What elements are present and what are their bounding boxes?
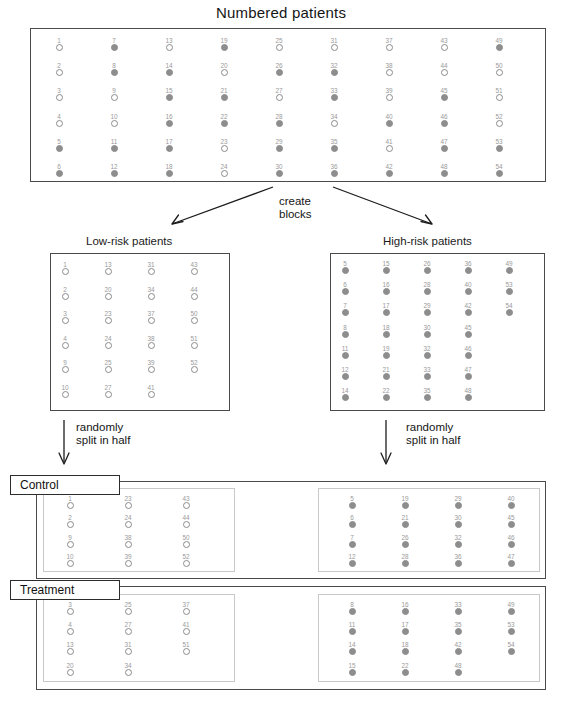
patient-marker: 26 xyxy=(272,62,286,77)
filled-dot-icon xyxy=(496,145,503,152)
filled-dot-icon xyxy=(424,352,431,359)
patient-number: 33 xyxy=(423,366,430,373)
filled-dot-icon xyxy=(349,628,356,635)
open-dot-icon xyxy=(56,94,63,101)
patient-marker: 18 xyxy=(398,641,412,656)
filled-dot-icon xyxy=(342,267,349,274)
patient-number: 12 xyxy=(110,163,117,170)
patient-marker: 30 xyxy=(420,324,434,339)
filled-dot-icon xyxy=(508,648,515,655)
patient-marker: 34 xyxy=(327,113,341,128)
filled-dot-icon xyxy=(166,145,173,152)
patient-number: 41 xyxy=(182,621,189,628)
patient-number: 24 xyxy=(124,514,131,521)
patient-marker: 3 xyxy=(63,601,77,616)
patient-number: 44 xyxy=(190,286,197,293)
patient-marker: 20 xyxy=(217,62,231,77)
patient-number: 40 xyxy=(507,495,514,502)
patient-marker: 1 xyxy=(58,261,72,276)
filled-dot-icon xyxy=(342,288,349,295)
patient-marker: 8 xyxy=(107,62,121,77)
control-tag-label: Control xyxy=(20,478,59,492)
patient-marker: 25 xyxy=(121,601,135,616)
patient-marker: 38 xyxy=(121,534,135,549)
open-dot-icon xyxy=(148,391,155,398)
patient-marker: 23 xyxy=(121,495,135,510)
patient-number: 45 xyxy=(507,514,514,521)
patient-number: 27 xyxy=(104,384,111,391)
patient-marker: 20 xyxy=(101,286,115,301)
filled-dot-icon xyxy=(349,560,356,567)
filled-dot-icon xyxy=(56,145,63,152)
patient-marker: 4 xyxy=(52,113,66,128)
patient-marker: 32 xyxy=(420,345,434,360)
patient-marker: 53 xyxy=(492,138,506,153)
patient-marker: 44 xyxy=(187,286,201,301)
filled-dot-icon xyxy=(56,170,63,177)
patient-marker: 5 xyxy=(52,138,66,153)
patient-marker: 14 xyxy=(162,62,176,77)
patient-number: 51 xyxy=(495,87,502,94)
patient-number: 34 xyxy=(330,113,337,120)
filled-dot-icon xyxy=(166,170,173,177)
patient-marker: 41 xyxy=(382,138,396,153)
patient-number: 25 xyxy=(275,37,282,44)
patient-number: 27 xyxy=(275,87,282,94)
patient-marker: 22 xyxy=(379,387,393,402)
patient-number: 22 xyxy=(401,662,408,669)
patient-number: 9 xyxy=(68,534,72,541)
filled-dot-icon xyxy=(166,120,173,127)
patient-marker: 48 xyxy=(461,387,475,402)
filled-dot-icon xyxy=(221,120,228,127)
filled-dot-icon xyxy=(342,352,349,359)
patient-marker: 22 xyxy=(398,662,412,677)
patient-marker: 46 xyxy=(461,345,475,360)
patient-marker: 13 xyxy=(101,261,115,276)
patient-marker: 19 xyxy=(217,37,231,52)
treatment-tag: Treatment xyxy=(10,580,120,600)
patient-number: 21 xyxy=(401,514,408,521)
treatment-tag-label: Treatment xyxy=(20,583,74,597)
patient-number: 49 xyxy=(505,260,512,267)
open-dot-icon xyxy=(67,628,74,635)
patient-marker: 12 xyxy=(107,163,121,178)
low-risk-grid: 1234910132023242527313437383941434450515… xyxy=(51,254,229,410)
patient-marker: 39 xyxy=(121,553,135,568)
patient-number: 54 xyxy=(505,302,512,309)
open-dot-icon xyxy=(386,44,393,51)
patient-number: 11 xyxy=(342,345,349,352)
patient-marker: 43 xyxy=(437,37,451,52)
filled-dot-icon xyxy=(508,560,515,567)
numbered-patients-grid: 1234567891011121314151617181920212223242… xyxy=(31,29,545,181)
open-dot-icon xyxy=(183,521,190,528)
filled-dot-icon xyxy=(465,352,472,359)
patient-number: 26 xyxy=(401,534,408,541)
patient-marker: 39 xyxy=(144,359,158,374)
open-dot-icon xyxy=(183,541,190,548)
filled-dot-icon xyxy=(496,170,503,177)
patient-number: 2 xyxy=(57,62,61,69)
patient-number: 12 xyxy=(341,366,348,373)
open-dot-icon xyxy=(191,268,198,275)
patient-marker: 29 xyxy=(420,302,434,317)
filled-dot-icon xyxy=(508,502,515,509)
high-risk-split-label-line2: split in half xyxy=(406,434,460,447)
page-title: Numbered patients xyxy=(216,4,346,21)
control-tag: Control xyxy=(10,475,120,495)
patient-marker: 54 xyxy=(502,302,516,317)
filled-dot-icon xyxy=(383,288,390,295)
patient-marker: 27 xyxy=(272,87,286,102)
patient-marker: 6 xyxy=(52,163,66,178)
filled-dot-icon xyxy=(276,69,283,76)
high-risk-label: High-risk patients xyxy=(383,235,472,247)
patient-number: 3 xyxy=(57,87,61,94)
filled-dot-icon xyxy=(386,120,393,127)
patient-marker: 51 xyxy=(492,87,506,102)
patient-number: 44 xyxy=(182,514,189,521)
filled-dot-icon xyxy=(331,69,338,76)
filled-dot-icon xyxy=(383,309,390,316)
patient-marker: 48 xyxy=(451,662,465,677)
open-dot-icon xyxy=(125,541,132,548)
patient-number: 4 xyxy=(63,335,67,342)
filled-dot-icon xyxy=(276,170,283,177)
